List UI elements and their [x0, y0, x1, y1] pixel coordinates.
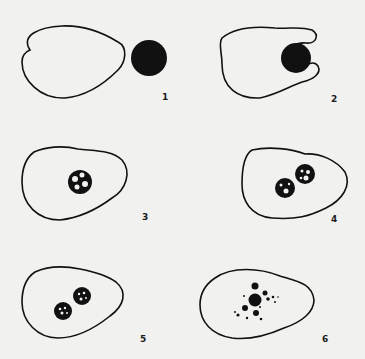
panel-3: 3 — [22, 147, 148, 222]
panel-4: 4 — [242, 148, 347, 224]
vacuole-a — [275, 178, 295, 198]
food-vacuole — [68, 170, 92, 194]
vacuole-a — [54, 302, 72, 320]
panel-label: 6 — [322, 334, 328, 344]
phagocytosis-diagram: 1 2 3 4 — [0, 0, 365, 359]
cell-outline — [22, 26, 125, 98]
panel-2: 2 — [220, 27, 337, 104]
panel-label: 5 — [140, 334, 146, 344]
vacuole-b — [73, 287, 91, 305]
panel-1: 1 — [22, 26, 168, 102]
fragments — [234, 283, 279, 321]
particle — [131, 40, 167, 76]
panel-label: 3 — [142, 212, 148, 222]
vacuole-b — [295, 164, 315, 184]
panel-label: 4 — [331, 214, 337, 224]
panel-6: 6 — [200, 270, 328, 345]
panel-label: 2 — [331, 94, 337, 104]
particle — [281, 43, 311, 73]
cell-outline — [22, 267, 123, 338]
panel-label: 1 — [162, 92, 168, 102]
cell-outline — [242, 148, 347, 218]
panel-5: 5 — [22, 267, 146, 344]
